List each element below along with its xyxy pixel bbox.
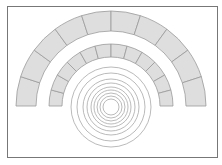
- concentric-circle: [97, 93, 125, 121]
- diagram-canvas: [0, 0, 222, 165]
- concentric-circles: [71, 67, 151, 147]
- inner-arch: [49, 44, 173, 106]
- inner-arch-stone: [95, 44, 111, 59]
- concentric-circle: [94, 90, 128, 124]
- inner-arch-stone: [158, 90, 173, 106]
- outer-arch: [16, 11, 206, 106]
- concentric-circle: [103, 99, 119, 115]
